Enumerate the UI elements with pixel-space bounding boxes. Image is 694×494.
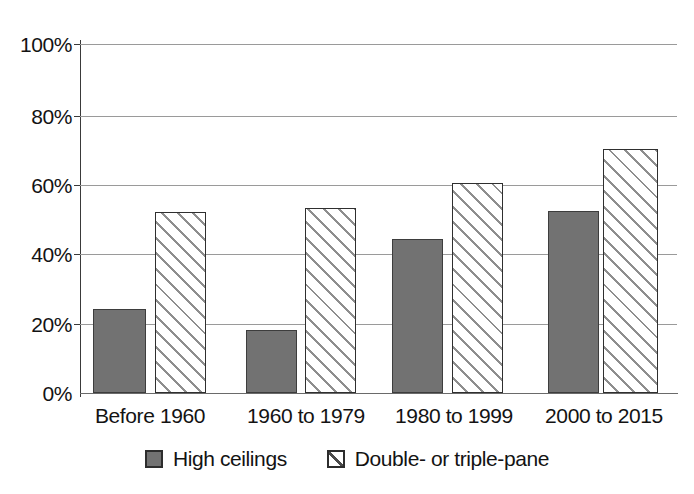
x-category-label-2: 1980 to 1999 (381, 404, 527, 428)
legend-label-double-triple-pane: Double- or triple-pane (355, 448, 549, 470)
y-tick-label-100: 100% (6, 34, 72, 55)
bar-double-triple-pane-2000-2015 (603, 149, 658, 393)
gridline-100 (80, 44, 677, 45)
y-tick-label-40: 40% (6, 244, 72, 265)
plot-area (80, 44, 677, 393)
y-tick-label-60: 60% (6, 175, 72, 196)
bar-high-ceilings-1980-1999 (392, 239, 443, 393)
bar-high-ceilings-1960-1979 (246, 330, 297, 393)
bar-double-triple-pane-1980-1999 (452, 183, 503, 393)
legend-item-high-ceilings: High ceilings (145, 448, 287, 470)
y-tick-label-80: 80% (6, 106, 72, 127)
x-category-label-0: Before 1960 (80, 404, 220, 428)
x-axis-line (80, 393, 678, 394)
chart-legend: High ceilings Double- or triple-pane (0, 448, 694, 470)
x-category-label-3: 2000 to 2015 (531, 404, 677, 428)
bar-high-ceilings-2000-2015 (548, 211, 599, 393)
legend-label-high-ceilings: High ceilings (173, 448, 287, 470)
gridline-60 (80, 185, 677, 186)
bar-double-triple-pane-before-1960 (155, 212, 206, 393)
bar-chart: 100% 80% 60% 40% 20% 0% Before 1960 1960… (0, 0, 694, 494)
legend-item-double-triple-pane: Double- or triple-pane (327, 448, 549, 470)
x-category-label-1: 1960 to 1979 (233, 404, 379, 428)
gridline-80 (80, 116, 677, 117)
bar-double-triple-pane-1960-1979 (305, 208, 356, 393)
solid-gray-swatch-icon (145, 450, 163, 468)
y-tick-label-0: 0% (6, 383, 72, 404)
bar-high-ceilings-before-1960 (93, 309, 146, 393)
y-tick-label-20: 20% (6, 314, 72, 335)
hatched-swatch-icon (327, 450, 345, 468)
